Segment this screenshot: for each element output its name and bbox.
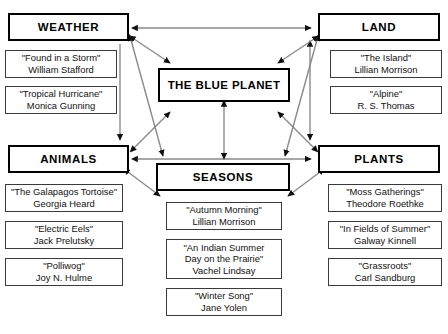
poem-title: "Moss Gatherings" xyxy=(346,186,424,198)
poem-box-moss-gatherings[interactable]: "Moss Gatherings" Theodore Roethke xyxy=(328,184,442,212)
poem-box-winter-song[interactable]: "Winter Song" Jane Yolen xyxy=(166,288,282,316)
poem-box-autumn-morning[interactable]: "Autumn Morning" Lillian Morrison xyxy=(166,202,282,230)
poem-title: "Polliwog" xyxy=(43,260,85,272)
category-label-weather: WEATHER xyxy=(38,21,99,33)
poem-author: Vachel Lindsay xyxy=(193,265,256,277)
category-label-seasons: SEASONS xyxy=(193,171,253,183)
diagram-canvas: WEATHER "Found in a Storm" William Staff… xyxy=(0,0,448,334)
poem-author: Galway Kinnell xyxy=(354,235,416,247)
poem-box-in-fields-of-summer[interactable]: "In Fields of Summer" Galway Kinnell xyxy=(328,221,442,249)
poem-box-alpine[interactable]: "Alpine" R. S. Thomas xyxy=(330,86,442,114)
poem-title: "The Galapagos Tortoise" xyxy=(11,186,117,198)
poem-title: "The Island" xyxy=(361,52,411,64)
poem-box-grassroots[interactable]: "Grassroots" Carl Sandburg xyxy=(328,258,442,286)
connector-land-center xyxy=(278,39,314,63)
poem-author: Georgia Heard xyxy=(33,198,95,210)
poem-author: Jack Prelutsky xyxy=(34,235,94,247)
category-label-animals: ANIMALS xyxy=(40,153,97,165)
poem-title-line-2: Day on the Prairie" xyxy=(185,253,263,265)
poem-author: William Stafford xyxy=(28,64,93,76)
poem-title: "Electric Eels" xyxy=(35,223,93,235)
category-box-plants[interactable]: PLANTS xyxy=(318,145,440,173)
poem-title-line-1: "An Indian Summer xyxy=(184,242,265,254)
poem-box-the-galapagos-tortoise[interactable]: "The Galapagos Tortoise" Georgia Heard xyxy=(5,184,123,212)
category-box-seasons[interactable]: SEASONS xyxy=(156,163,290,191)
poem-title: "Autumn Morning" xyxy=(186,204,261,216)
connector-animals-center xyxy=(134,112,170,148)
center-label: THE BLUE PLANET xyxy=(168,79,281,91)
poem-box-found-in-a-storm[interactable]: "Found in a Storm" William Stafford xyxy=(5,50,117,78)
connector-weather-center xyxy=(134,39,170,63)
category-box-weather[interactable]: WEATHER xyxy=(8,13,129,41)
category-box-animals[interactable]: ANIMALS xyxy=(8,145,129,173)
category-box-land[interactable]: LAND xyxy=(318,13,440,41)
poem-title: "Alpine" xyxy=(370,88,403,100)
poem-box-electric-eels[interactable]: "Electric Eels" Jack Prelutsky xyxy=(5,221,123,249)
category-label-land: LAND xyxy=(362,21,396,33)
poem-author: Monica Gunning xyxy=(27,100,95,112)
poem-author: Carl Sandburg xyxy=(355,272,415,284)
poem-author: Lillian Morrison xyxy=(354,64,417,76)
poem-author: Theodore Roethke xyxy=(346,198,424,210)
poem-title: "Grassroots" xyxy=(359,260,412,272)
poem-author: Lillian Morrison xyxy=(192,216,255,228)
poem-box-tropical-hurricane[interactable]: "Tropical Hurricane" Monica Gunning xyxy=(5,86,117,114)
poem-title: "Winter Song" xyxy=(195,290,253,302)
center-box-the-blue-planet[interactable]: THE BLUE PLANET xyxy=(158,68,290,102)
poem-author: Joy N. Hulme xyxy=(36,272,92,284)
poem-author: Jane Yolen xyxy=(201,302,247,314)
poem-title: "In Fields of Summer" xyxy=(340,223,431,235)
connector-plants-center xyxy=(278,112,314,148)
poem-title: "Found in a Storm" xyxy=(22,52,101,64)
poem-box-the-island[interactable]: "The Island" Lillian Morrison xyxy=(330,50,442,78)
poem-title: "Tropical Hurricane" xyxy=(20,88,103,100)
category-label-plants: PLANTS xyxy=(354,153,404,165)
poem-box-an-indian-summer-day-on-the-prairie[interactable]: "An Indian Summer Day on the Prairie" Va… xyxy=(166,239,282,279)
poem-author: R. S. Thomas xyxy=(357,100,414,112)
poem-box-polliwog[interactable]: "Polliwog" Joy N. Hulme xyxy=(5,258,123,286)
connector-plants-seasons xyxy=(288,172,320,196)
